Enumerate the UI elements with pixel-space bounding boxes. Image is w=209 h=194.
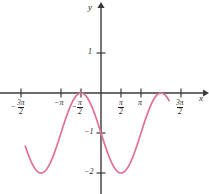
y-axis-arrow bbox=[97, 2, 104, 8]
x-axis-arrow bbox=[203, 89, 209, 96]
y-axis bbox=[97, 2, 104, 194]
plot-canvas bbox=[0, 0, 209, 194]
fraction: π 2 bbox=[77, 99, 83, 116]
fraction-numerator: 3π bbox=[16, 99, 26, 107]
fraction-denominator: 2 bbox=[177, 107, 183, 116]
y-axis-label: y bbox=[88, 3, 92, 12]
x-tick-label-neg-pi-over-2: − π 2 bbox=[72, 99, 83, 116]
minus-sign: − bbox=[11, 103, 16, 111]
y-tick-label-1: 1 bbox=[88, 48, 92, 56]
fraction-numerator: π bbox=[77, 99, 83, 107]
x-axis-label: x bbox=[199, 94, 203, 103]
x-tick-label-pi-over-2: π 2 bbox=[118, 99, 124, 116]
x-tick-label-neg-3pi-over-2: − 3π 2 bbox=[11, 99, 26, 116]
fraction-numerator: 3π bbox=[175, 99, 185, 107]
x-tick-label-pi: π bbox=[138, 99, 142, 107]
fraction-denominator: 2 bbox=[18, 107, 24, 116]
fraction: π 2 bbox=[118, 99, 124, 116]
y-tick-label-neg2: −2 bbox=[84, 168, 93, 176]
x-tick-label-3pi-over-2: 3π 2 bbox=[175, 99, 185, 116]
y-tick-label-neg1: −1 bbox=[84, 128, 93, 136]
minus-sign: − bbox=[72, 103, 77, 111]
sine-curve-figure: y x 1 −1 −2 − 3π 2 −π − π 2 π 2 π bbox=[0, 0, 209, 194]
x-tick-label-neg-pi: −π bbox=[54, 99, 63, 107]
fraction: 3π 2 bbox=[16, 99, 26, 116]
x-axis bbox=[0, 89, 209, 96]
fraction-denominator: 2 bbox=[118, 107, 124, 116]
fraction-denominator: 2 bbox=[77, 107, 83, 116]
fraction: 3π 2 bbox=[175, 99, 185, 116]
fraction-numerator: π bbox=[118, 99, 124, 107]
